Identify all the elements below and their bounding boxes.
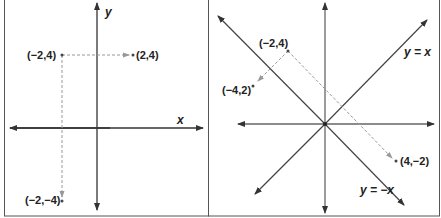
point-4-neg2 — [395, 160, 398, 163]
dashed-arrow-to-neg4-2 — [258, 51, 288, 81]
point-neg2-4 — [61, 54, 64, 57]
label-2-4: (2,4) — [136, 49, 159, 61]
point-neg2-4 — [287, 50, 290, 53]
right-panel: (−2,4) (−4,2) (4,−2) y = x y = −x — [218, 3, 434, 213]
diagram-canvas: y x (−2,4) (2,4) (−2,−4) (−2,4) (−4,2) (… — [0, 0, 441, 218]
line-y-eq-x-down — [255, 124, 325, 194]
line-y-eq-x-up — [325, 20, 427, 124]
point-neg2-neg4 — [61, 200, 64, 203]
left-panel-border — [5, 0, 209, 216]
label-4-neg2: (4,−2) — [400, 155, 429, 167]
origin-point — [323, 122, 327, 126]
label-y-eq-x: y = x — [403, 45, 432, 59]
label-neg2-neg4: (−2,−4) — [25, 194, 61, 206]
right-panel-border — [209, 0, 440, 216]
x-axis-label: x — [176, 113, 185, 127]
label-y-eq-neg-x: y = −x — [359, 183, 395, 197]
point-neg4-2 — [252, 85, 255, 88]
label-neg2-4: (−2,4) — [259, 37, 288, 49]
y-axis-label: y — [104, 5, 113, 19]
left-panel: y x (−2,4) (2,4) (−2,−4) — [10, 3, 203, 210]
dashed-arrow-to-4-neg2 — [288, 51, 392, 158]
label-neg2-4: (−2,4) — [27, 49, 56, 61]
line-y-eq-neg-x-up — [218, 16, 325, 124]
label-neg4-2: (−4,2) — [222, 84, 251, 96]
point-2-4 — [132, 54, 135, 57]
